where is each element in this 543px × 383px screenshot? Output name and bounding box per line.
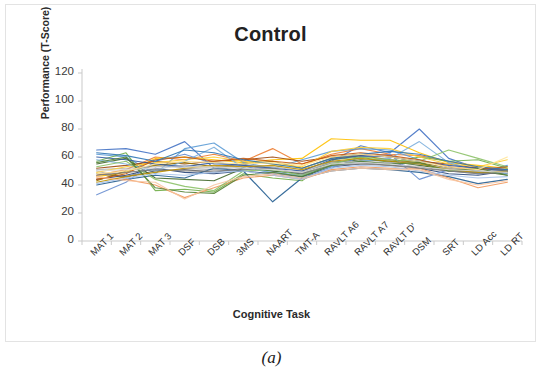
plot-area: Performance (T-Score) 020406080100120 MA… [6, 5, 537, 343]
figure-panel-a: Control Performance (T-Score) 0204060801… [0, 0, 543, 383]
chart-container: Control Performance (T-Score) 0204060801… [5, 4, 536, 342]
x-axis-title: Cognitive Task [6, 308, 537, 320]
figure-caption: (a) [0, 348, 543, 368]
series-lines-svg [6, 5, 537, 343]
series-group [97, 129, 508, 202]
